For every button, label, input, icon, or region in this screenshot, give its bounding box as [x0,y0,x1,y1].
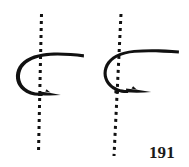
hook-point-axis-crossing-right [114,90,119,93]
hook-point-right [126,89,151,93]
hook-point-axis-crossing-left [38,93,42,96]
hook-left-group [16,14,84,152]
hook-shank-and-bend-right [104,49,179,93]
dashed-axis-left [39,14,42,152]
hook-barb-right [131,86,137,90]
dashed-axis-right [114,14,121,156]
hook-barb-left [45,89,50,92]
hook-point-left [40,92,61,96]
figure-page: 191 [0,0,189,167]
hook-shank-and-bend-left [16,52,84,95]
hook-illustration [0,0,189,167]
figure-number: 191 [149,144,175,161]
hook-right-group [104,14,179,156]
